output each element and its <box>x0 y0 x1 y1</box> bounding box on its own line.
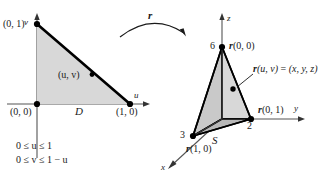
surface-label: S <box>212 135 218 146</box>
domain-inequality-v: 0 ≤ v ≤ 1 − u <box>16 155 68 165</box>
domain-vertex-0-1 <box>34 21 40 27</box>
surface-interior-point-label: r(u, v) = (x, y, z) <box>253 64 318 74</box>
domain-interior-point-label: (u, v) <box>58 70 80 80</box>
x-axis-label: x <box>161 163 165 172</box>
x-intercept-point-label: r(1, 0) <box>186 144 212 154</box>
y-intercept-point-label: r(0, 1) <box>258 105 284 115</box>
domain-interior-point <box>90 72 95 77</box>
u-axis-arrowhead <box>143 101 150 106</box>
u-axis-label: u <box>134 91 139 100</box>
y-intercept-tick-label: 2 <box>247 121 252 131</box>
domain-vertex-0-0 <box>34 101 40 107</box>
mapping-arrow-label: r <box>148 10 152 21</box>
surface-point-leader-line <box>237 74 253 87</box>
mapping-arrow-head <box>180 28 186 36</box>
z-axis-arrowhead <box>219 13 224 20</box>
surface-vertex-apex <box>219 44 225 50</box>
mapping-arrow-arc <box>120 23 184 37</box>
apex-tick-label: 6 <box>210 41 215 51</box>
surface-vertex-x <box>190 133 196 139</box>
parametric-surface-figure: v (0, 1) (0, 0) (1, 0) u D (u, v) 0 ≤ u … <box>0 0 325 184</box>
apex-point-label: r(0, 0) <box>229 41 255 51</box>
domain-vertex-0-1-label: (0, 1) <box>3 19 25 29</box>
y-axis-arrowhead <box>298 116 305 121</box>
domain-vertex-1-0-label: (1, 0) <box>116 107 138 117</box>
z-axis-label: z <box>227 14 231 23</box>
v-axis-arrowhead <box>34 13 39 20</box>
y-axis-label: y <box>294 104 298 113</box>
domain-inequality-u: 0 ≤ u ≤ 1 <box>16 141 52 151</box>
surface-interior-point <box>230 86 235 91</box>
domain-region-label: D <box>75 106 83 117</box>
domain-vertex-0-0-label: (0, 0) <box>10 107 32 117</box>
x-intercept-tick-label: 3 <box>180 130 185 140</box>
